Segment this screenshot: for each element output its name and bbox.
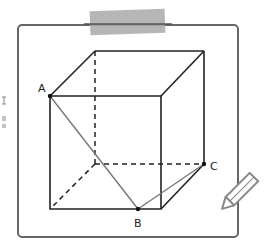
margin-marks [2,97,6,128]
point-c [202,162,206,166]
cube-diagram: A B C [0,0,266,249]
label-c: C [210,160,218,173]
label-a: A [38,82,46,95]
paper-frame [18,25,238,237]
point-b [136,207,140,211]
tape-icon [84,9,172,36]
point-a [48,94,52,98]
label-b: B [134,217,142,230]
